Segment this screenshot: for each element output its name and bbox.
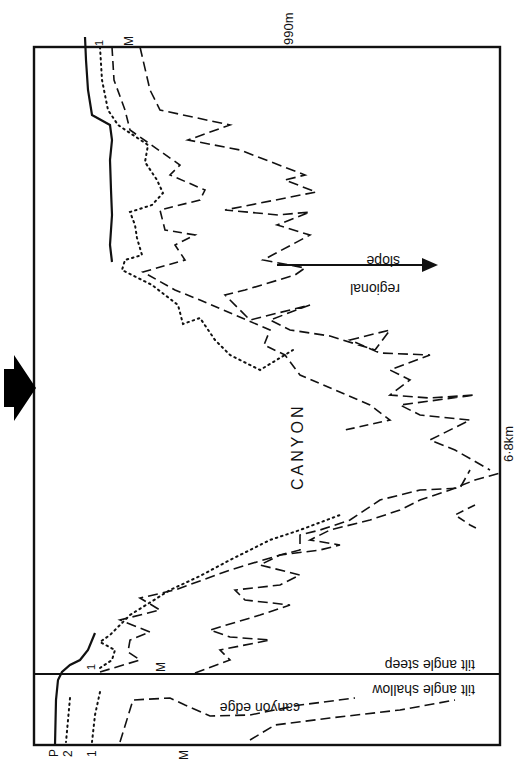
- horizon-M-dashed-outer: [140, 47, 490, 470]
- canyon-label: CANYON: [289, 404, 306, 490]
- canyon-edge-label: canyon edge: [220, 700, 300, 716]
- top-horizon-M: M: [122, 36, 136, 46]
- horizon-2-dotted-shallow: [66, 698, 70, 742]
- horizon-fragment: [455, 505, 480, 530]
- top-scale-label: 990m: [281, 12, 296, 45]
- bottom-horizon-M: M: [177, 750, 191, 760]
- cross-section-diagram: 990m 6·8km CANYON regional slope tilt an…: [0, 0, 525, 764]
- tilt-steep-label: tilt angle steep: [385, 657, 475, 673]
- bottom-horizon-2: 2: [61, 750, 75, 757]
- top-horizon-1: 1: [93, 40, 105, 46]
- right-scale-label: 6·8km: [501, 426, 516, 462]
- bottom-horizon-P: P: [47, 749, 61, 757]
- regional-label: regional: [350, 281, 400, 297]
- horizon-1-dotted: [100, 47, 293, 370]
- horizon-M-dashed-deep-lower: [195, 473, 500, 673]
- inner-horizon-M: M: [154, 662, 168, 672]
- horizon-M-dashed-inner: [112, 47, 390, 430]
- inner-horizon-1: 1: [85, 664, 97, 670]
- horizon-1-dotted-shallow: [92, 692, 100, 742]
- bottom-horizon-1: 1: [85, 750, 99, 757]
- horizon-P-solid: [85, 37, 112, 262]
- horizon-1-dotted-lower: [100, 515, 340, 668]
- horizon-P-solid-lower: [55, 633, 95, 745]
- position-arrow-icon: [4, 355, 36, 421]
- slope-label-alt: slope: [366, 253, 400, 269]
- tilt-shallow-label: tilt angle shallow: [371, 682, 475, 698]
